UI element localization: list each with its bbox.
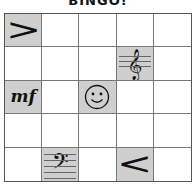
cell-r2c4-treble-clef[interactable]: 𝄞: [117, 47, 154, 80]
cell-r5c4-crescendo[interactable]: <: [117, 148, 154, 181]
cell-r4c2[interactable]: [42, 114, 79, 147]
cell-r3c4[interactable]: [117, 81, 154, 114]
staff-line: [44, 178, 76, 179]
cell-r5c2-bass-clef[interactable]: 𝄢: [42, 148, 79, 181]
decrescendo-icon: >: [5, 15, 40, 45]
staff-line: [44, 166, 76, 167]
staff-line: [119, 66, 151, 67]
cell-r2c1[interactable]: [5, 47, 42, 80]
cell-r4c5[interactable]: [154, 114, 191, 147]
cell-r3c1-mezzo-forte[interactable]: mf: [5, 81, 42, 114]
cell-r1c5[interactable]: [154, 14, 191, 47]
cell-r1c2[interactable]: [42, 14, 79, 47]
cell-r2c2[interactable]: [42, 47, 79, 80]
cell-r1c1-decrescendo[interactable]: >: [5, 14, 42, 47]
cell-r5c3[interactable]: [79, 148, 116, 181]
cell-r1c3[interactable]: [79, 14, 116, 47]
staff-line: [44, 160, 76, 161]
cell-r5c1[interactable]: [5, 148, 42, 181]
cell-r4c4[interactable]: [117, 114, 154, 147]
treble-clef-icon: 𝄞: [127, 51, 142, 77]
crescendo-icon: <: [117, 149, 152, 179]
staff-line: [44, 172, 76, 173]
staff-line: [44, 154, 76, 155]
bass-clef-icon: 𝄢: [52, 151, 69, 177]
smiley-icon: [84, 84, 110, 110]
cell-r1c4[interactable]: [117, 14, 154, 47]
cell-r3c5[interactable]: [154, 81, 191, 114]
cell-r2c3[interactable]: [79, 47, 116, 80]
staff-line: [119, 61, 151, 62]
staff-line: [119, 56, 151, 57]
cell-r5c5[interactable]: [154, 148, 191, 181]
bingo-title: BINGO!: [0, 0, 196, 8]
cell-r4c3[interactable]: [79, 114, 116, 147]
cell-r3c2[interactable]: [42, 81, 79, 114]
cell-r4c1[interactable]: [5, 114, 42, 147]
mezzo-forte-icon: mf: [10, 88, 35, 105]
cell-r3c3-free-space[interactable]: [79, 81, 116, 114]
bingo-board: > 𝄞 mf 𝄢 <: [4, 13, 192, 182]
cell-r2c5[interactable]: [154, 47, 191, 80]
